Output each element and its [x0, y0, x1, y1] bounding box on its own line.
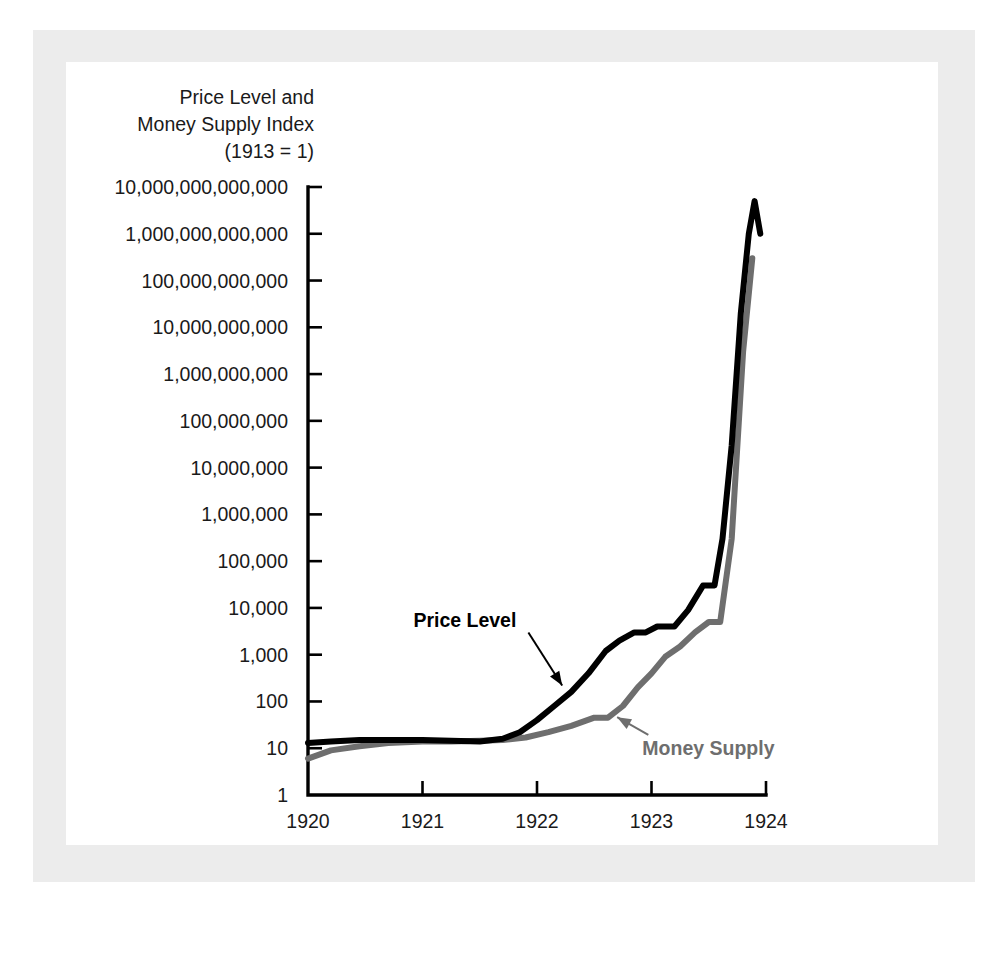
y-tick-label: 1,000 [239, 644, 288, 666]
y-tick-label: 10,000 [228, 597, 288, 619]
y-tick-label: 1 [277, 784, 288, 806]
y-tick-label: 100,000,000,000 [142, 270, 289, 292]
x-axis-tick-labels: 19201921192219231924 [286, 810, 788, 832]
price-level-line [308, 201, 760, 743]
annotation-layer: Price Level Money Supply [413, 609, 774, 759]
y-tick-label: 1,000,000,000 [163, 363, 288, 385]
figure-plate: Price Level and Money Supply Index (1913… [66, 62, 938, 845]
money-supply-label: Money Supply [642, 737, 774, 759]
x-tick-label: 1921 [401, 810, 444, 832]
y-axis-tick-marks [308, 187, 322, 795]
y-tick-label: 1,000,000 [201, 503, 288, 525]
y-axis-tick-labels: 10,000,000,000,0001,000,000,000,000100,0… [114, 176, 288, 806]
hyperinflation-line-chart: 10,000,000,000,0001,000,000,000,000100,0… [66, 62, 938, 845]
money-supply-arrowhead [617, 717, 632, 729]
y-tick-label: 100,000 [218, 550, 289, 572]
x-tick-label: 1924 [744, 810, 788, 832]
x-axis-tick-marks [308, 781, 766, 795]
y-tick-label: 1,000,000,000,000 [125, 223, 288, 245]
x-tick-label: 1920 [286, 810, 330, 832]
y-tick-label: 10,000,000,000,000 [114, 176, 288, 198]
money-supply-line [308, 258, 752, 758]
y-tick-label: 10,000,000 [190, 457, 288, 479]
axis-spine [308, 187, 766, 795]
x-tick-label: 1922 [515, 810, 558, 832]
y-tick-label: 100 [255, 690, 288, 712]
y-tick-label: 100,000,000 [180, 410, 289, 432]
y-tick-label: 10 [266, 737, 288, 759]
figure-body: Price Level and Money Supply Index (1913… [66, 62, 938, 845]
x-tick-label: 1923 [630, 810, 673, 832]
price-level-label: Price Level [413, 609, 516, 631]
y-tick-label: 10,000,000,000 [152, 316, 288, 338]
chart-page: Price Level and Money Supply Index (1913… [0, 0, 1004, 954]
price-level-arrowhead [550, 671, 562, 686]
